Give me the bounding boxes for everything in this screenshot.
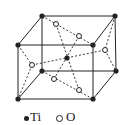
ti-atoms — [15, 13, 118, 101]
legend-label-o: O — [66, 109, 75, 124]
legend-item-ti: Ti — [24, 109, 41, 125]
open-circle-icon — [56, 115, 63, 122]
legend-item-o: O — [56, 109, 75, 125]
filled-circle-icon — [24, 116, 29, 121]
legend-label-ti: Ti — [30, 109, 41, 124]
unit-cell-diagram — [0, 0, 128, 108]
